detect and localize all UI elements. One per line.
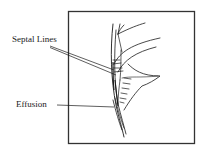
leader-lines xyxy=(50,46,116,107)
effusion-label: Effusion xyxy=(16,100,47,109)
septal-lines-label: Septal Lines xyxy=(12,35,57,44)
frame-border xyxy=(69,12,195,144)
diagram-drawing xyxy=(0,0,207,150)
lung-outline xyxy=(111,23,160,137)
chest-diagram: Septal Lines Effusion xyxy=(0,0,207,150)
septal-leader-2 xyxy=(50,48,116,76)
septal-leader-1 xyxy=(50,46,114,70)
effusion-leader xyxy=(57,105,114,107)
